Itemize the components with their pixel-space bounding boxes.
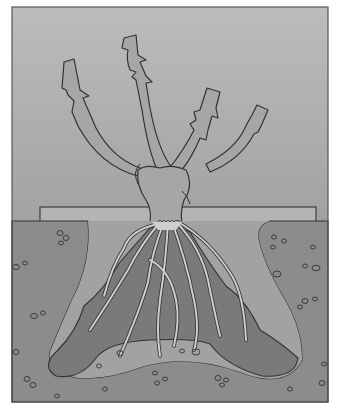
planting-diagram [0, 0, 338, 412]
illustration: Planting a bare-root rose [0, 0, 338, 412]
